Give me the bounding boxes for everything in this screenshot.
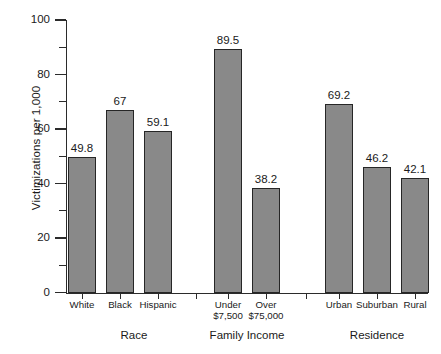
category-label-line1: Rural bbox=[403, 299, 426, 310]
bar bbox=[363, 167, 391, 293]
category-label: Over$75,000 bbox=[232, 299, 300, 321]
bar bbox=[401, 178, 429, 293]
bar bbox=[252, 188, 280, 292]
bar-value-label: 89.5 bbox=[202, 34, 254, 46]
y-tick-major bbox=[55, 19, 66, 20]
bar-value-label: 69.2 bbox=[313, 89, 365, 101]
y-tick-label: 20 bbox=[22, 232, 50, 244]
category-label-line1: Hispanic bbox=[139, 299, 176, 310]
bar bbox=[106, 110, 134, 293]
y-tick-major bbox=[55, 128, 66, 129]
category-label: Rural bbox=[381, 299, 441, 310]
y-tick-minor bbox=[59, 47, 66, 48]
bar-chart: Victimizations per 1,000 020406080100 49… bbox=[0, 0, 441, 354]
y-tick-minor bbox=[59, 265, 66, 266]
bar-value-label: 42.1 bbox=[389, 163, 441, 175]
group-label: Family Income bbox=[177, 329, 317, 341]
y-tick-label: 0 bbox=[22, 287, 50, 299]
y-tick-major bbox=[55, 237, 66, 238]
bar-value-label: 49.8 bbox=[56, 142, 108, 154]
y-tick-label: 40 bbox=[22, 178, 50, 190]
bar-value-label: 38.2 bbox=[240, 173, 292, 185]
y-tick-label: 60 bbox=[22, 123, 50, 135]
y-tick-major bbox=[55, 183, 66, 184]
y-tick-minor bbox=[59, 210, 66, 211]
bar-value-label: 59.1 bbox=[132, 116, 184, 128]
group-label: Residence bbox=[307, 329, 441, 341]
y-tick-label: 80 bbox=[22, 69, 50, 81]
bar bbox=[214, 49, 242, 293]
y-tick-major bbox=[55, 74, 66, 75]
bar bbox=[68, 157, 96, 293]
category-label: Hispanic bbox=[124, 299, 192, 310]
y-tick-minor bbox=[59, 101, 66, 102]
category-label-line1: Over bbox=[256, 299, 277, 310]
y-tick-minor bbox=[59, 156, 66, 157]
bar bbox=[144, 131, 172, 292]
y-tick-major bbox=[55, 292, 66, 293]
category-label-line2: $75,000 bbox=[232, 310, 300, 321]
bar bbox=[325, 104, 353, 293]
bar-value-label: 67 bbox=[94, 95, 146, 107]
y-tick-label: 100 bbox=[22, 14, 50, 26]
